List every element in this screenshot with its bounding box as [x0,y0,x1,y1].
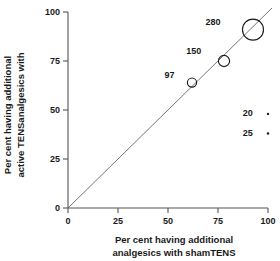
data-point-label-20: 20 [243,108,253,118]
data-point-label-25: 25 [243,128,253,138]
data-point-25 [267,132,269,134]
x-tick-label-50: 50 [163,216,173,226]
scatter-chart: 0 25 50 75 100 0 25 50 75 100 9715028020… [0,0,280,261]
data-point-280 [243,19,264,40]
x-axis-title-line1: Per cent having additional [115,234,233,245]
y-tick-label-50: 50 [50,105,60,115]
data-point-label-150: 150 [186,46,201,56]
line-of-equality [68,8,272,208]
x-tick-label-0: 0 [65,216,70,226]
x-tick-label-75: 75 [213,216,223,226]
data-point-20 [267,113,269,115]
data-markers: 971502802025 [164,17,269,138]
y-tick-label-75: 75 [50,56,60,66]
data-point-150 [218,55,229,66]
y-axis-title-line1: Per cent having additional [2,56,13,174]
x-tick-label-100: 100 [260,216,275,226]
x-axis-title-line2: analgesics with shamTENS [112,247,235,258]
data-point-label-97: 97 [164,70,174,80]
y-tick-label-100: 100 [45,7,60,17]
y-axis-title-line2: active TENSanalgesics with [15,52,26,177]
y-tick-label-25: 25 [50,154,60,164]
plot-area: 0 25 50 75 100 0 25 50 75 100 9715028020… [0,0,280,261]
data-point-97 [187,78,196,87]
x-tick-label-25: 25 [113,216,123,226]
y-tick-label-0: 0 [55,203,60,213]
data-point-label-280: 280 [205,17,220,27]
